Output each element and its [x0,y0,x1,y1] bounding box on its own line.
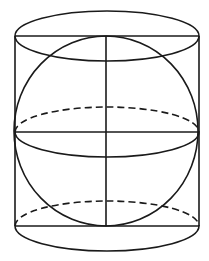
cylinder-bottom-back-dashed [15,201,199,226]
cylinder-bottom-front-arc [15,226,199,251]
equator-front-arc [15,132,199,157]
sphere-in-cylinder-diagram [0,0,209,261]
equator-back-dashed [15,107,199,132]
